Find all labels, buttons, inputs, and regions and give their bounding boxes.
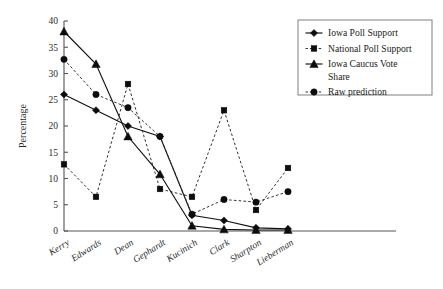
- x-tick-label-kucinich: Kucinich: [164, 237, 199, 264]
- percentage-line-chart: 0510152025303540PercentageKerryEdwardsDe…: [0, 0, 443, 289]
- datapoint-1-7: [285, 165, 291, 171]
- y-tick-label-0: 0: [53, 226, 58, 236]
- x-tick-label-kerry: Kerry: [46, 237, 72, 258]
- datapoint-1-1: [93, 194, 99, 200]
- datapoint-1-3: [157, 186, 163, 192]
- datapoint-1-2: [125, 81, 131, 87]
- legend-label-4: Raw prediction: [328, 86, 387, 97]
- datapoint-1-0: [61, 162, 67, 168]
- x-tick-label-edwards: Edwards: [69, 237, 104, 264]
- datapoint-3-4: [189, 211, 195, 217]
- datapoint-1-5: [221, 107, 227, 113]
- datapoint-0-2: [124, 122, 131, 129]
- y-tick-label-35: 35: [49, 43, 59, 53]
- y-tick-label-40: 40: [49, 16, 59, 26]
- x-tick-label-gephardt: Gephardt: [131, 237, 167, 265]
- legend-label-3: Share: [328, 71, 350, 82]
- datapoint-1-4: [189, 194, 195, 200]
- datapoint-2-2: [124, 132, 132, 140]
- y-tick-label-20: 20: [49, 121, 59, 131]
- datapoint-3-2: [125, 104, 131, 110]
- datapoint-3-1: [93, 91, 99, 97]
- y-axis-title: Percentage: [17, 104, 28, 148]
- x-tick-label-clark: Clark: [207, 237, 231, 257]
- legend-label-0: Iowa Poll Support: [328, 27, 398, 38]
- x-tick-label-dean: Dean: [111, 237, 135, 257]
- datapoint-0-0: [60, 91, 67, 98]
- datapoint-3-3: [157, 133, 163, 139]
- legend: Iowa Poll SupportNational Poll SupportIo…: [298, 20, 432, 97]
- chart-container: 0510152025303540PercentageKerryEdwardsDe…: [0, 0, 443, 289]
- datapoint-3-6: [253, 199, 259, 205]
- legend-label-2: Iowa Caucus Vote: [328, 58, 397, 69]
- legend-marker-square: [311, 46, 317, 52]
- datapoint-3-5: [221, 196, 227, 202]
- datapoint-0-1: [92, 107, 99, 114]
- x-axis-labels: KerryEdwardsDeanGephardtKucinichClarkSha…: [46, 237, 295, 268]
- legend-label-1: National Poll Support: [328, 43, 412, 54]
- y-tick-label-5: 5: [53, 200, 58, 210]
- y-tick-label-15: 15: [49, 148, 59, 158]
- series-national-poll-support: [61, 81, 291, 213]
- y-tick-label-25: 25: [49, 95, 59, 105]
- y-tick-label-10: 10: [49, 174, 59, 184]
- legend-marker-circle: [311, 89, 317, 95]
- datapoint-2-4: [188, 222, 196, 230]
- series-line-1: [64, 84, 288, 210]
- datapoint-1-6: [253, 207, 259, 213]
- datapoint-3-0: [61, 56, 67, 62]
- datapoint-3-7: [285, 188, 291, 194]
- series-line-3: [64, 59, 288, 214]
- datapoint-0-5: [220, 217, 227, 224]
- y-tick-label-30: 30: [49, 69, 59, 79]
- datapoint-2-0: [60, 27, 68, 35]
